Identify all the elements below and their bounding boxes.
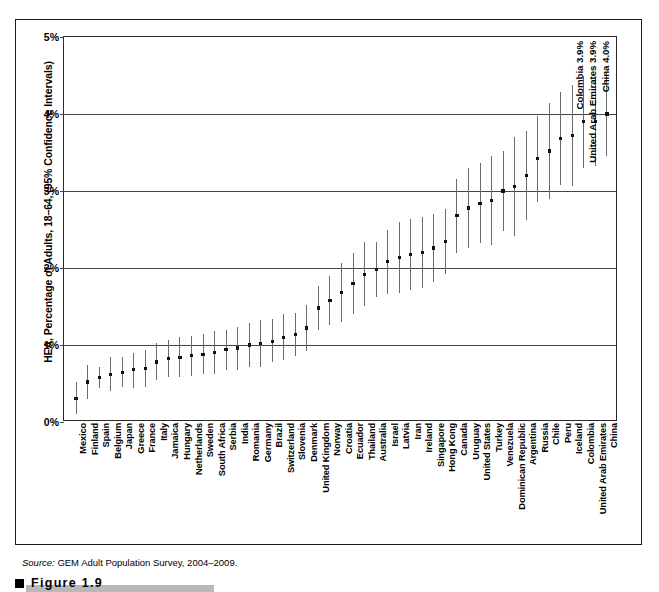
x-axis-label: Slovenia: [297, 423, 307, 460]
mean-marker: [224, 348, 227, 351]
mean-marker: [144, 367, 147, 370]
x-axis-label: United States: [482, 423, 492, 480]
gridline: [64, 114, 616, 115]
chart-annotation: Colombia 3.9%: [574, 41, 585, 109]
mean-marker: [74, 397, 77, 400]
mean-marker: [282, 336, 285, 339]
chart-annotation: China 4.0%: [600, 41, 611, 92]
mean-marker: [201, 353, 204, 356]
mean-marker: [375, 268, 378, 271]
y-tick-mark: [60, 114, 64, 115]
mean-marker: [351, 282, 354, 285]
y-tick-label: 0%: [44, 416, 59, 428]
mean-marker: [444, 240, 447, 243]
x-axis-label: Chile: [551, 423, 561, 445]
x-axis-label: Australia: [378, 423, 388, 461]
y-tick-mark: [60, 37, 64, 38]
y-tick-label: 5%: [44, 31, 59, 43]
x-axis-label: Italy: [159, 423, 169, 441]
x-axis-label: Latvia: [401, 423, 411, 449]
mean-marker: [421, 251, 424, 254]
source-note: Source: GEM Adult Population Survey, 200…: [22, 557, 237, 568]
mean-marker: [363, 273, 366, 276]
x-axis-label: Hungary: [182, 423, 192, 460]
x-axis-label: Canada: [459, 423, 469, 456]
mean-marker: [132, 368, 135, 371]
figure-caption-label: Figure 1.9: [31, 576, 103, 590]
mean-marker: [86, 380, 89, 383]
x-axis-label: Belgium: [113, 423, 123, 459]
x-axis-label: Finland: [90, 423, 100, 455]
x-axis-label: Iran: [413, 423, 423, 439]
mean-marker: [305, 326, 308, 329]
x-axis-label: Singapore: [436, 423, 446, 467]
y-tick-label: 4%: [44, 108, 59, 120]
x-axis-label: China: [609, 423, 619, 448]
mean-marker: [559, 137, 562, 140]
x-axis-label: Sweden: [205, 423, 215, 457]
mean-marker: [213, 351, 216, 354]
mean-marker: [155, 360, 158, 363]
mean-marker: [513, 185, 516, 188]
y-axis-title: HEA, Percentage of Adults, 18–64, (95% C…: [42, 12, 54, 412]
mean-marker: [548, 149, 551, 152]
mean-marker: [409, 253, 412, 256]
x-axis-label: Mexico: [78, 423, 88, 454]
y-tick-mark: [60, 268, 64, 269]
plot-area: 0%1%2%3%4%5% Colombia 3.9%United Arab Em…: [63, 36, 617, 421]
mean-marker: [525, 174, 528, 177]
x-axis-label: Thailand: [367, 423, 377, 460]
mean-marker: [294, 333, 297, 336]
mean-marker: [236, 346, 239, 349]
mean-marker: [490, 199, 493, 202]
mean-marker: [478, 202, 481, 205]
mean-marker: [167, 357, 170, 360]
x-axis-label: Serbia: [228, 423, 238, 451]
mean-marker: [432, 246, 435, 249]
x-axis-label: Colombia: [586, 423, 596, 464]
mean-marker: [501, 189, 504, 192]
gridline: [64, 345, 616, 346]
x-axis-label: Ecuador: [355, 423, 365, 459]
y-tick-mark: [60, 345, 64, 346]
source-text: GEM Adult Population Survey, 2004–2009.: [55, 557, 238, 568]
x-axis-label: Norway: [332, 423, 342, 456]
x-axis-label: Netherlands: [194, 423, 204, 475]
x-axis-label: Denmark: [309, 423, 319, 462]
y-tick-label: 2%: [44, 262, 59, 274]
mean-marker: [259, 342, 262, 345]
mean-marker: [467, 206, 470, 209]
x-axis-label: Croatia: [344, 423, 354, 454]
x-axis-label: Jamaica: [170, 423, 180, 459]
x-axis-label: United Kingdom: [321, 423, 331, 493]
y-tick-label: 3%: [44, 185, 59, 197]
chart-annotation: United Arab Emirates 3.9%: [587, 41, 598, 163]
x-axis-label: Peru: [563, 423, 573, 443]
mean-marker: [190, 354, 193, 357]
y-tick-label: 1%: [44, 339, 59, 351]
x-axis-label: Greece: [136, 423, 146, 454]
x-axis-labels: MexicoFinlandSpainBelgiumJapanGreeceFran…: [63, 423, 617, 543]
mean-marker: [271, 340, 274, 343]
x-axis-label: Iceland: [574, 423, 584, 454]
y-tick-mark: [60, 191, 64, 192]
figure-frame: HEA, Percentage of Adults, 18–64, (95% C…: [15, 19, 642, 545]
gridline: [64, 268, 616, 269]
x-axis-label: Ireland: [424, 423, 434, 452]
x-axis-label: South Africa: [217, 423, 227, 476]
mean-marker: [386, 260, 389, 263]
annotation-group: Colombia 3.9%United Arab Emirates 3.9%Ch…: [573, 41, 612, 161]
x-axis-label: Spain: [101, 423, 111, 448]
x-axis-label: France: [147, 423, 157, 453]
x-axis-label: Germany: [263, 423, 273, 462]
mean-marker: [398, 256, 401, 259]
x-axis-label: Switzerland: [286, 423, 296, 473]
mean-marker: [328, 299, 331, 302]
mean-marker: [536, 157, 539, 160]
x-axis-label: Hong Kong: [447, 423, 457, 472]
x-axis-label: Uruguay: [471, 423, 481, 460]
gridline: [64, 191, 616, 192]
mean-marker: [340, 291, 343, 294]
mean-marker: [121, 371, 124, 374]
x-axis-label: Russia: [540, 423, 550, 453]
